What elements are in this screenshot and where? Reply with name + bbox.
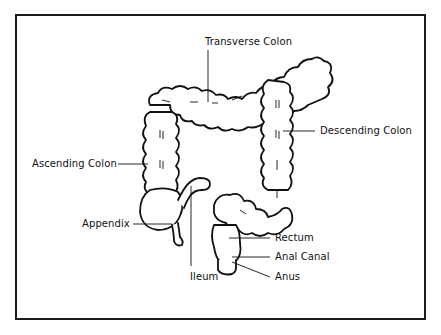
rectum-shape	[212, 225, 241, 261]
label-rectum: Rectum	[275, 232, 314, 244]
ileum-shape	[178, 178, 210, 208]
ascending-colon-shape	[143, 112, 179, 194]
anus-leader	[232, 262, 270, 277]
label-ascending-colon: Ascending Colon	[32, 158, 117, 170]
label-anal-canal: Anal Canal	[275, 251, 330, 263]
appendix-shape	[172, 223, 183, 246]
label-descending-colon: Descending Colon	[320, 125, 412, 137]
label-transverse-colon: Transverse Colon	[205, 36, 292, 48]
label-anus: Anus	[275, 271, 300, 283]
label-appendix: Appendix	[82, 218, 130, 230]
descending-colon-shape	[261, 80, 293, 190]
label-ileum: Ileum	[190, 271, 218, 283]
